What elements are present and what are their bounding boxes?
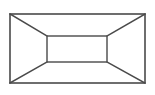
back-wall-plane bbox=[47, 36, 107, 62]
perspective-box-drawing bbox=[0, 0, 155, 95]
perspective-diagram bbox=[0, 0, 155, 95]
